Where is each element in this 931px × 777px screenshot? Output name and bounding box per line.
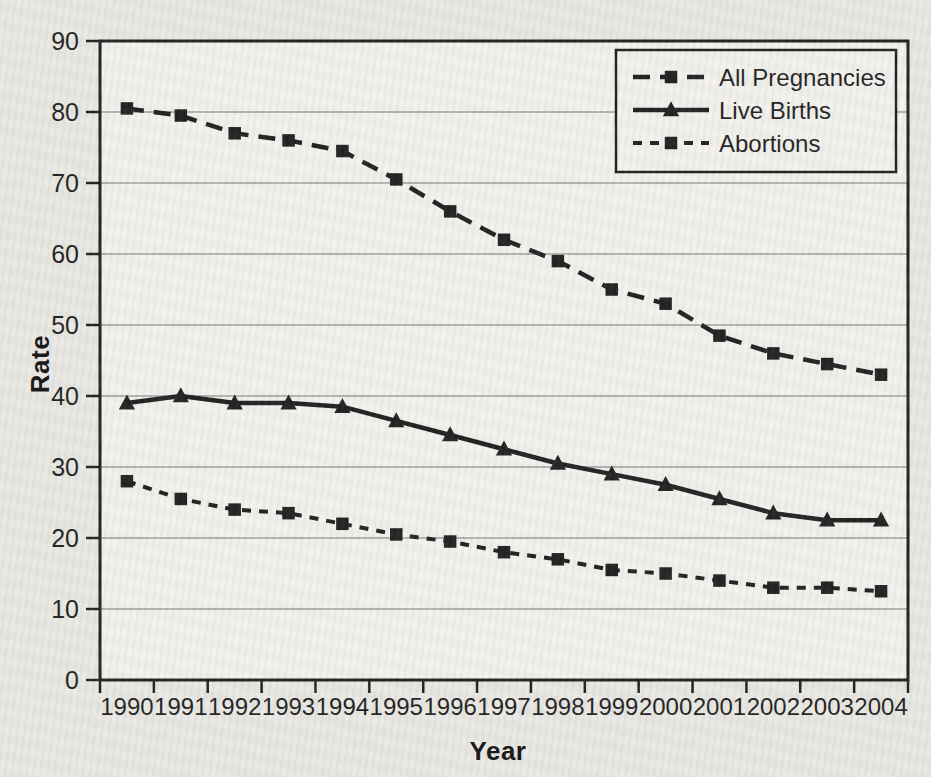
legend-label-abortions: Abortions bbox=[719, 130, 820, 157]
series-marker-all-pregnancies bbox=[175, 109, 188, 122]
x-axis-tick-label: 1992 bbox=[208, 693, 261, 720]
x-axis-tick-label: 1993 bbox=[262, 693, 315, 720]
series-marker-all-pregnancies bbox=[875, 368, 888, 381]
y-axis-tick-label: 10 bbox=[51, 595, 79, 623]
series-marker-all-pregnancies bbox=[121, 102, 134, 115]
x-axis-tick-label: 1994 bbox=[316, 693, 369, 720]
teen-pregnancy-rate-line-chart: 0102030405060708090199019911992199319941… bbox=[0, 0, 931, 777]
series-marker-all-pregnancies bbox=[228, 127, 241, 140]
x-axis-tick-label: 1998 bbox=[531, 693, 584, 720]
series-marker-all-pregnancies bbox=[713, 329, 726, 342]
series-marker-all-pregnancies bbox=[336, 145, 349, 158]
series-marker-all-pregnancies bbox=[659, 297, 672, 310]
series-marker-abortions bbox=[713, 574, 726, 587]
series-marker-abortions bbox=[821, 581, 834, 594]
x-axis-tick-label: 1996 bbox=[423, 693, 476, 720]
legend-label-all-pregnancies: All Pregnancies bbox=[719, 64, 886, 91]
series-marker-abortions bbox=[552, 553, 565, 566]
series-marker-all-pregnancies bbox=[552, 255, 565, 268]
x-axis-tick-label: 1990 bbox=[100, 693, 153, 720]
series-marker-abortions bbox=[121, 475, 134, 488]
legend-label-live-births: Live Births bbox=[719, 97, 831, 124]
series-marker-all-pregnancies bbox=[767, 347, 780, 360]
series-marker-abortions bbox=[175, 493, 188, 506]
x-axis-tick-label: 2002 bbox=[747, 693, 800, 720]
x-axis-tick-label: 1997 bbox=[477, 693, 530, 720]
y-axis-tick-label: 90 bbox=[51, 27, 79, 55]
x-axis-tick-label: 2003 bbox=[801, 693, 854, 720]
y-axis-tick-label: 0 bbox=[65, 666, 79, 694]
legend-sample-marker-all-pregnancies bbox=[665, 71, 678, 84]
series-marker-all-pregnancies bbox=[390, 173, 403, 186]
x-axis-tick-label: 2004 bbox=[854, 693, 907, 720]
series-marker-abortions bbox=[336, 518, 349, 531]
y-axis-tick-label: 60 bbox=[51, 240, 79, 268]
series-marker-all-pregnancies bbox=[282, 134, 295, 147]
y-axis-tick-label: 80 bbox=[51, 98, 79, 126]
x-axis-tick-label: 2001 bbox=[693, 693, 746, 720]
series-marker-abortions bbox=[444, 535, 457, 548]
series-marker-abortions bbox=[875, 585, 888, 598]
series-marker-all-pregnancies bbox=[444, 205, 457, 218]
y-axis-tick-label: 20 bbox=[51, 524, 79, 552]
series-marker-all-pregnancies bbox=[605, 283, 618, 296]
legend-sample-marker-abortions bbox=[665, 137, 678, 150]
series-marker-abortions bbox=[390, 528, 403, 541]
series-marker-abortions bbox=[282, 507, 295, 520]
series-marker-abortions bbox=[228, 503, 241, 515]
series-marker-abortions bbox=[605, 564, 618, 577]
x-axis-tick-label: 1991 bbox=[154, 693, 207, 720]
series-marker-all-pregnancies bbox=[821, 358, 834, 371]
series-marker-abortions bbox=[659, 567, 672, 580]
y-axis-title: Rate bbox=[25, 335, 56, 393]
x-axis-tick-label: 1999 bbox=[585, 693, 638, 720]
y-axis-tick-label: 30 bbox=[51, 453, 79, 481]
series-marker-all-pregnancies bbox=[498, 234, 511, 247]
scanned-figure-page: 0102030405060708090199019911992199319941… bbox=[0, 0, 931, 777]
y-axis-tick-label: 70 bbox=[51, 169, 79, 197]
x-axis-tick-label: 2000 bbox=[639, 693, 692, 720]
series-marker-abortions bbox=[498, 546, 511, 559]
x-axis-tick-label: 1995 bbox=[370, 693, 423, 720]
x-axis-title: Year bbox=[470, 736, 527, 767]
series-marker-abortions bbox=[767, 581, 780, 594]
